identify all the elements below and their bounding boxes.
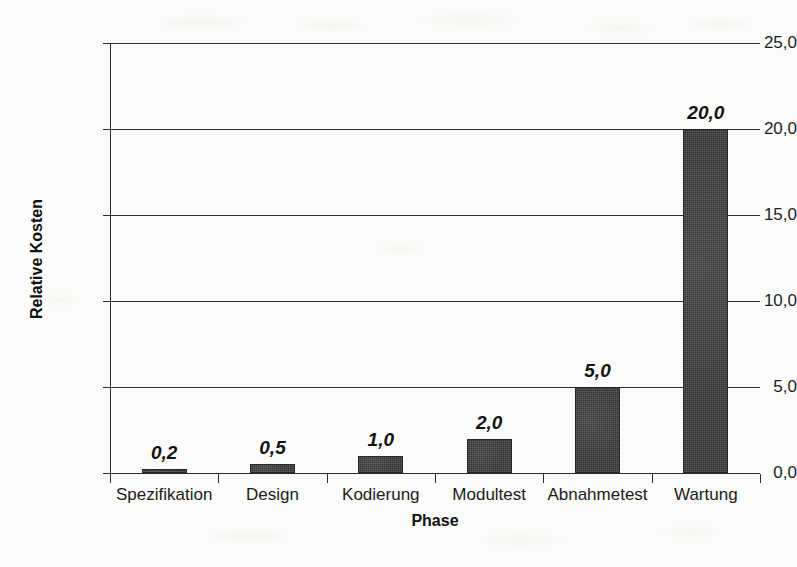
bar-value-label: 1,0 — [321, 429, 441, 451]
y-tick-mark — [103, 215, 110, 216]
x-tick-mark — [652, 474, 653, 483]
bar[interactable] — [575, 387, 620, 473]
x-tick-mark — [543, 474, 544, 483]
bar[interactable] — [250, 464, 295, 473]
x-tick-mark — [218, 474, 219, 483]
y-tick-mark — [103, 129, 110, 130]
y-tick-mark — [103, 387, 110, 388]
category-label: Design — [212, 485, 332, 505]
category-label: Wartung — [646, 485, 766, 505]
bar-value-label: 0,5 — [213, 437, 333, 459]
bar-value-label: 0,2 — [104, 442, 224, 464]
x-tick-mark — [760, 474, 761, 483]
x-tick-mark — [327, 474, 328, 483]
x-tick-mark — [110, 474, 111, 483]
gridline — [110, 215, 760, 216]
bar[interactable] — [358, 456, 403, 473]
category-label: Modultest — [429, 485, 549, 505]
category-label: Abnahmetest — [537, 485, 657, 505]
y-tick-label: 25,0 — [701, 33, 797, 53]
y-tick-mark — [103, 473, 110, 474]
bar[interactable] — [467, 439, 512, 473]
bar-chart: 0,05,010,015,020,025,0 0,20,51,02,05,020… — [0, 0, 797, 567]
bar-value-label: 20,0 — [646, 102, 766, 124]
gridline — [110, 387, 760, 388]
y-axis-title: Relative Kosten — [28, 159, 46, 359]
category-label: Spezifikation — [104, 485, 224, 505]
bar[interactable] — [683, 129, 728, 473]
x-tick-mark — [435, 474, 436, 483]
gridline — [110, 43, 760, 44]
bar[interactable] — [142, 469, 187, 473]
gridline — [110, 301, 760, 302]
gridline — [110, 129, 760, 130]
category-label: Kodierung — [321, 485, 441, 505]
y-tick-mark — [103, 301, 110, 302]
bar-value-label: 5,0 — [538, 360, 658, 382]
y-tick-mark — [103, 43, 110, 44]
x-axis-title: Phase — [110, 512, 760, 530]
bar-value-label: 2,0 — [429, 412, 549, 434]
